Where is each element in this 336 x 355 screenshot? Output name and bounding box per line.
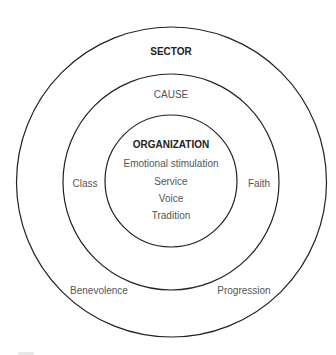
organization-label-tradition: Tradition: [152, 210, 191, 221]
sector-label-progression: Progression: [217, 285, 270, 296]
organization-title: ORGANIZATION: [133, 139, 209, 150]
sector-title: SECTOR: [150, 46, 192, 57]
organization-label-emotional-stimulation: Emotional stimulation: [123, 158, 218, 169]
sector-label-benevolence: Benevolence: [70, 285, 128, 296]
cause-label-faith: Faith: [248, 178, 270, 189]
cause-title: CAUSE: [154, 89, 189, 100]
concentric-circle-diagram: SECTOR Benevolence Progression CAUSE Cla…: [0, 0, 336, 355]
cause-label-class: Class: [72, 178, 97, 189]
organization-label-voice: Voice: [159, 193, 184, 204]
organization-label-service: Service: [154, 176, 188, 187]
